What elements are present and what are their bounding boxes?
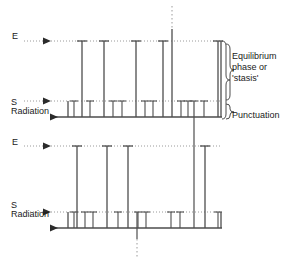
bottom-energy-arrowhead: [43, 143, 51, 150]
top-baseline-arrowhead: [50, 114, 58, 121]
top-energy-arrowhead: [43, 38, 51, 45]
top-energy-label: E: [12, 31, 18, 41]
punctuation-label: Punctuation: [232, 110, 280, 120]
bottom-energy-label: E: [12, 137, 18, 147]
bottom-short-ticks: [74, 212, 218, 228]
top-tall-bars: [82, 41, 218, 117]
top-source-arrowhead: [43, 98, 51, 105]
top-short-ticks: [74, 101, 204, 117]
bottom-baseline-arrowhead: [50, 225, 58, 232]
bottom-radiation-label: Radiation: [11, 209, 49, 219]
bottom-panel: [24, 143, 222, 259]
top-panel: [24, 6, 223, 205]
equilibrium-phase-label: Equilibrium phase or 'stasis': [232, 51, 277, 84]
diagram-canvas: E S Radiation E S Radiation Equilibrium …: [0, 0, 299, 264]
outer-brace: [222, 41, 230, 119]
punctuated-equilibrium-svg: [0, 0, 299, 264]
top-radiation-label: Radiation: [11, 106, 49, 116]
bottom-tall-bars: [77, 146, 205, 228]
